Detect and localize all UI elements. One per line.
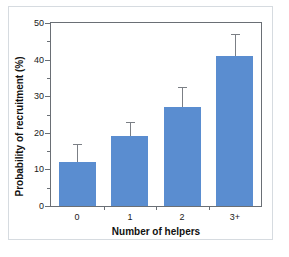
y-tick-minor	[47, 78, 51, 79]
y-tick-major	[45, 206, 51, 207]
y-tick-minor	[47, 41, 51, 42]
y-tick-label: 40	[34, 55, 44, 64]
y-tick-minor	[47, 188, 51, 189]
error-bar-stem	[77, 144, 78, 162]
error-bar-stem	[182, 87, 183, 107]
y-tick-major	[45, 133, 51, 134]
error-bar-cap	[126, 122, 135, 123]
x-tick	[104, 206, 105, 210]
y-tick-label: 30	[34, 92, 44, 101]
y-tick-minor	[47, 151, 51, 152]
figure-canvas: 01020304050 0123+ Probability of recruit…	[0, 0, 289, 257]
y-tick-label: 10	[34, 165, 44, 174]
plot-area: 01020304050 0123+	[50, 22, 262, 207]
bar	[164, 107, 201, 206]
bar	[216, 56, 253, 206]
y-tick-major	[45, 96, 51, 97]
y-tick-major	[45, 169, 51, 170]
x-tick-label: 2	[179, 213, 184, 222]
x-tick	[156, 206, 157, 210]
x-tick	[209, 206, 210, 210]
error-bar-cap	[178, 87, 187, 88]
x-tick-label: 1	[127, 213, 132, 222]
y-tick-label: 0	[39, 202, 44, 211]
error-bar-cap	[231, 34, 240, 35]
y-axis-title: Probability of recruitment (%)	[14, 34, 26, 219]
y-tick-label: 50	[34, 19, 44, 28]
error-bar-stem	[130, 122, 131, 137]
y-tick-major	[45, 60, 51, 61]
y-tick-major	[45, 23, 51, 24]
y-tick-minor	[47, 115, 51, 116]
error-bar-stem	[235, 34, 236, 56]
bar	[111, 136, 148, 206]
x-axis-title: Number of helpers	[50, 226, 262, 237]
bar	[59, 162, 96, 206]
x-tick-label: 0	[74, 213, 79, 222]
error-bar-cap	[73, 144, 82, 145]
x-tick-label: 3+	[230, 213, 240, 222]
y-tick-label: 20	[34, 128, 44, 137]
